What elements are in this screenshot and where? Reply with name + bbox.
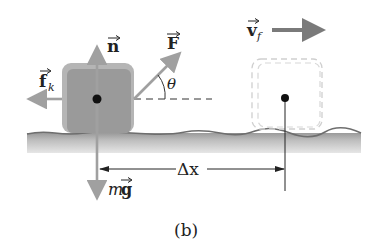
label-weight: m g — [108, 178, 132, 200]
label-final-velocity: v f — [246, 19, 263, 44]
final-block-outline — [252, 59, 322, 129]
svg-text:f: f — [256, 30, 263, 43]
svg-text:g: g — [121, 180, 132, 199]
figure-caption: (b) — [174, 220, 198, 240]
block-center-dot — [93, 95, 102, 104]
label-applied-force: F — [167, 32, 180, 54]
physics-diagram: n F f k θ v f m g Δx (b) — [0, 0, 377, 246]
svg-text:f: f — [39, 71, 48, 91]
label-friction: f k — [39, 69, 55, 95]
svg-text:k: k — [48, 81, 55, 94]
label-displacement: Δx — [177, 159, 199, 179]
final-center-dot — [281, 94, 289, 102]
label-normal-force: n — [107, 36, 120, 57]
label-angle: θ — [167, 75, 176, 93]
angle-arc — [158, 75, 165, 99]
